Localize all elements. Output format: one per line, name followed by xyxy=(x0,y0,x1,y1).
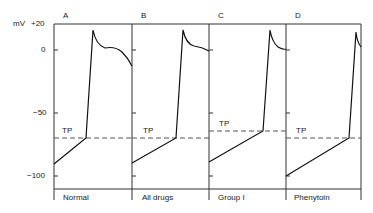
panel-letter-d: D xyxy=(295,11,301,20)
trace-group-i xyxy=(209,30,286,162)
y-tick-minus50: −50 xyxy=(33,108,47,117)
tp-label-d: TP xyxy=(296,126,306,135)
caption-normal: Normal xyxy=(63,193,89,202)
tp-label-c: TP xyxy=(219,119,229,128)
caption-phenytoin: Phenytoin xyxy=(294,193,330,202)
trace-all-drugs xyxy=(132,30,209,163)
y-axis-unit: mV xyxy=(13,19,25,28)
tp-label-a: TP xyxy=(62,126,72,135)
tp-label-b: TP xyxy=(143,126,153,135)
trace-normal xyxy=(54,30,132,164)
caption-group-i: Group I xyxy=(218,193,245,202)
y-tick-plus20: +20 xyxy=(31,19,45,28)
action-potential-diagram xyxy=(0,0,373,213)
caption-all-drugs: All drugs xyxy=(142,193,173,202)
panel-letter-c: C xyxy=(218,11,224,20)
trace-phenytoin xyxy=(286,32,361,176)
y-tick-minus100: −100 xyxy=(27,171,45,180)
panel-letter-b: B xyxy=(141,11,146,20)
y-tick-0: 0 xyxy=(41,45,45,54)
panel-letter-a: A xyxy=(63,11,68,20)
